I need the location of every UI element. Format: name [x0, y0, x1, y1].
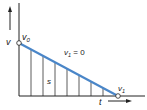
velocity-line [19, 43, 118, 96]
velocity-time-diagram: v v0 v1 = 0 s v1 t [0, 0, 147, 110]
y-axis-label: v [6, 37, 11, 47]
start-point-marker [17, 41, 22, 46]
x-direction-arrow-icon [108, 99, 132, 103]
x-axis-label: t [99, 97, 102, 107]
start-point-label: v0 [22, 32, 31, 43]
y-direction-arrow-icon [8, 6, 12, 30]
end-point-label: v1 [118, 84, 125, 94]
area-label: s [47, 77, 51, 86]
condition-label: v1 = 0 [64, 48, 85, 58]
end-point-marker [116, 94, 121, 99]
